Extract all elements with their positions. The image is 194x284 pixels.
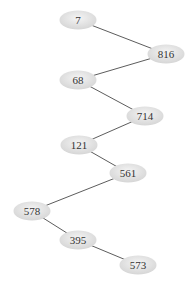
- node-label: 714: [137, 110, 154, 122]
- tree-node-573: 573: [120, 256, 157, 275]
- tree-diagram: 781668714121561578395573: [0, 0, 194, 284]
- tree-node-68: 68: [60, 71, 97, 90]
- node-label: 578: [24, 205, 41, 217]
- node-label: 395: [70, 234, 87, 246]
- tree-node-561: 561: [110, 164, 147, 183]
- nodes: 781668714121561578395573: [14, 11, 185, 275]
- edges: [32, 20, 166, 265]
- tree-node-578: 578: [14, 202, 51, 221]
- tree-node-7: 7: [60, 11, 97, 30]
- node-label: 816: [158, 48, 175, 60]
- tree-node-121: 121: [61, 136, 98, 155]
- tree-node-816: 816: [148, 45, 185, 64]
- node-label: 121: [71, 139, 88, 151]
- tree-node-714: 714: [127, 107, 164, 126]
- node-label: 561: [120, 167, 137, 179]
- node-label: 573: [130, 259, 147, 271]
- tree-node-395: 395: [60, 231, 97, 250]
- node-label: 7: [75, 14, 81, 26]
- node-label: 68: [73, 74, 85, 86]
